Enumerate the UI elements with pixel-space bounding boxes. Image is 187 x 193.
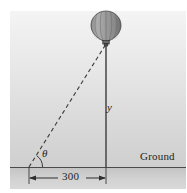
ground-label: Ground bbox=[140, 151, 175, 162]
figure-canvas bbox=[0, 0, 187, 193]
base-distance-label: 300 bbox=[62, 171, 79, 182]
basket-base bbox=[104, 44, 108, 46]
height-label: y bbox=[107, 102, 112, 113]
balloon-angle-figure: Ground y θ 300 bbox=[0, 0, 187, 193]
angle-label: θ bbox=[42, 148, 47, 159]
hot-air-balloon-icon bbox=[91, 11, 121, 42]
